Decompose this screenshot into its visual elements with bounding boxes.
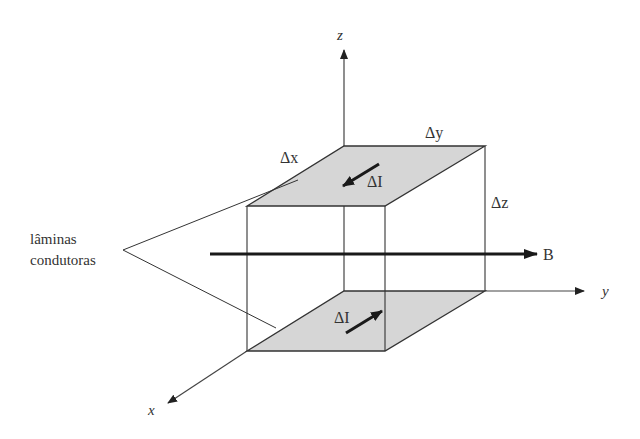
x-axis	[168, 351, 247, 403]
bottom-current-label: ΔI	[334, 309, 350, 326]
callout-line-bottom	[123, 250, 276, 328]
callout-label-line2: condutoras	[30, 252, 96, 268]
conducting-plates-diagram: z y x B ΔI ΔI Δx Δy Δz lâminas condutora…	[0, 0, 640, 439]
dx-label: Δx	[280, 149, 298, 166]
dz-label: Δz	[491, 194, 508, 211]
callout-line-top	[123, 180, 298, 250]
dy-label: Δy	[425, 124, 443, 142]
magnetic-field-label: B	[543, 246, 554, 263]
callout-label-line1: lâminas	[30, 231, 77, 247]
z-axis-label: z	[336, 27, 343, 43]
y-axis-label: y	[600, 283, 609, 299]
x-axis-label: x	[147, 402, 155, 418]
top-current-label: ΔI	[367, 173, 383, 190]
